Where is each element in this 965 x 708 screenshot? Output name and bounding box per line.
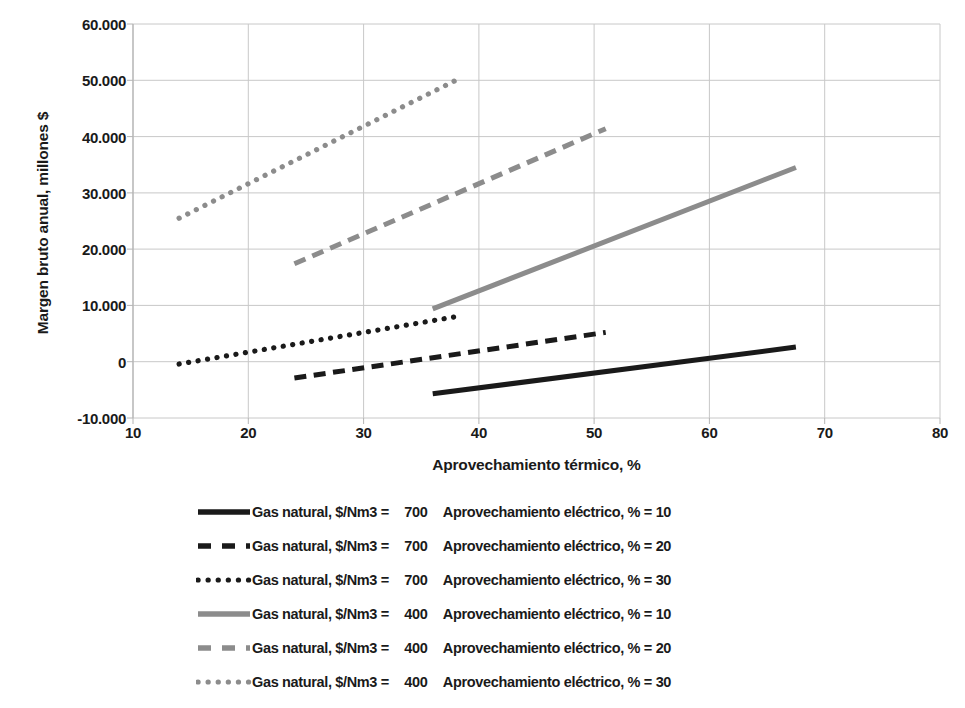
legend-label-suffix: Aprovechamiento eléctrico, % = 10 [443, 606, 671, 622]
legend-label-suffix: Aprovechamiento eléctrico, % = 20 [443, 640, 671, 656]
legend-label-suffix: Aprovechamiento eléctrico, % = 10 [443, 504, 671, 520]
legend-label-gas-price: 400 [389, 640, 443, 656]
x-axis-tick-label: 70 [795, 424, 855, 441]
legend-label: Gas natural, $/Nm3 =400Aprovechamiento e… [252, 606, 671, 622]
plot-area-block: Margen bruto anual, millones $ -10.00001… [0, 0, 965, 490]
legend-label-gas-price: 400 [389, 606, 443, 622]
x-axis-tick-label: 80 [910, 424, 965, 441]
legend-label-gas-price: 700 [389, 572, 443, 588]
data-series-line-3 [179, 317, 456, 364]
legend-label-gas-price: 400 [389, 674, 443, 690]
x-axis-tick-label: 40 [449, 424, 509, 441]
x-axis-tick-label: 10 [103, 424, 163, 441]
data-series-line-2 [294, 332, 605, 378]
legend-key-dashed-swatch [196, 640, 252, 656]
legend-label-suffix: Aprovechamiento eléctrico, % = 30 [443, 572, 671, 588]
x-axis-title: Aprovechamiento térmico, % [133, 456, 940, 474]
legend-row[interactable]: Gas natural, $/Nm3 =400Aprovechamiento e… [0, 665, 965, 699]
x-axis-tick-label: 20 [218, 424, 278, 441]
legend-row[interactable]: Gas natural, $/Nm3 =700Aprovechamiento e… [0, 529, 965, 563]
legend-label-prefix: Gas natural, $/Nm3 = [252, 674, 389, 690]
legend-label-prefix: Gas natural, $/Nm3 = [252, 572, 389, 588]
x-axis-tick-label: 50 [564, 424, 624, 441]
x-axis-tick-label: 30 [334, 424, 394, 441]
chart-figure: Margen bruto anual, millones $ -10.00001… [0, 0, 965, 708]
data-series-line-6 [179, 80, 456, 218]
legend-key-solid-swatch [196, 504, 252, 520]
legend-label-gas-price: 700 [389, 538, 443, 554]
plot-canvas [0, 0, 965, 490]
legend-row[interactable]: Gas natural, $/Nm3 =400Aprovechamiento e… [0, 597, 965, 631]
legend-row[interactable]: Gas natural, $/Nm3 =700Aprovechamiento e… [0, 563, 965, 597]
legend-key-dotted-swatch [196, 572, 252, 588]
x-axis-tick-label: 60 [679, 424, 739, 441]
legend-label-gas-price: 700 [389, 504, 443, 520]
legend-row[interactable]: Gas natural, $/Nm3 =700Aprovechamiento e… [0, 495, 965, 529]
legend-label: Gas natural, $/Nm3 =400Aprovechamiento e… [252, 640, 671, 656]
legend-label-prefix: Gas natural, $/Nm3 = [252, 640, 389, 656]
legend-label-suffix: Aprovechamiento eléctrico, % = 20 [443, 538, 671, 554]
legend-label-prefix: Gas natural, $/Nm3 = [252, 504, 389, 520]
legend-label-suffix: Aprovechamiento eléctrico, % = 30 [443, 674, 671, 690]
legend-label: Gas natural, $/Nm3 =700Aprovechamiento e… [252, 504, 671, 520]
chart-legend: Gas natural, $/Nm3 =700Aprovechamiento e… [0, 495, 965, 699]
legend-label: Gas natural, $/Nm3 =400Aprovechamiento e… [252, 674, 671, 690]
legend-key-solid-swatch [196, 606, 252, 622]
legend-label-prefix: Gas natural, $/Nm3 = [252, 538, 389, 554]
legend-label-prefix: Gas natural, $/Nm3 = [252, 606, 389, 622]
legend-label: Gas natural, $/Nm3 =700Aprovechamiento e… [252, 572, 671, 588]
data-series-line-1 [433, 347, 796, 394]
legend-key-dashed-swatch [196, 538, 252, 554]
data-series-line-4 [433, 168, 796, 309]
data-series-line-5 [294, 129, 605, 264]
legend-row[interactable]: Gas natural, $/Nm3 =400Aprovechamiento e… [0, 631, 965, 665]
legend-label: Gas natural, $/Nm3 =700Aprovechamiento e… [252, 538, 671, 554]
legend-key-dotted-swatch [196, 674, 252, 690]
